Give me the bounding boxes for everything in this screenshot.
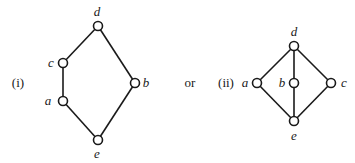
node-c [59,59,68,68]
edge-d-c [294,46,331,83]
node-label-a: a [45,93,52,108]
node-label-b: b [279,75,286,90]
node-b [290,79,299,88]
edge-d-a [257,46,294,83]
node-label-d: d [291,24,298,39]
edge-d-c [63,26,98,63]
node-c [327,79,336,88]
node-a [59,97,68,106]
node-label-e: e [291,128,297,143]
node-label-c: c [48,55,54,70]
node-label-e: e [94,146,100,161]
node-d [94,22,103,31]
hasse-diagram-2: dabce(ii) [218,24,347,143]
hasse-diagram-1: dcaeb(i) [12,4,150,161]
edge-c-e [294,83,331,121]
node-d [290,42,299,51]
edge-a-e [257,83,294,121]
edge-a-e [63,101,98,140]
node-e [94,136,103,145]
node-label-c: c [341,75,347,90]
diagram-caption: (ii) [218,75,234,90]
node-label-d: d [94,4,101,19]
node-a [253,79,262,88]
edge-e-b [98,83,135,140]
node-label-b: b [143,75,150,90]
node-label-a: a [242,75,249,90]
diagram-caption: (i) [12,75,24,90]
node-e [290,117,299,126]
node-b [131,79,140,88]
lattice-diagrams: dcaeb(i)dabce(ii)or [0,0,355,163]
connector-text: or [185,75,197,90]
edge-b-d [98,26,135,83]
